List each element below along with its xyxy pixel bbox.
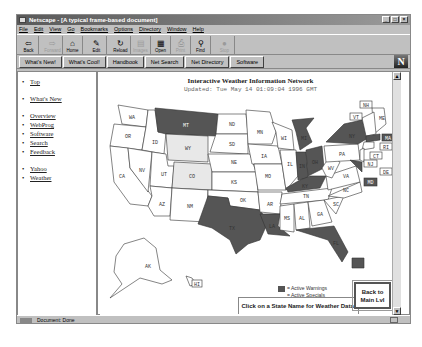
stop-label: Stop <box>220 48 229 53</box>
minimize-button[interactable]: _ <box>382 16 390 23</box>
edit-button[interactable]: ✎ Edit <box>87 36 107 55</box>
label-sd: SD <box>229 142 235 148</box>
netscape-logo-icon[interactable]: N <box>394 55 408 68</box>
nav-item-search[interactable]: Search <box>22 138 96 147</box>
whats-new-button[interactable]: What's New! <box>19 56 62 68</box>
images-label: Images <box>133 48 148 53</box>
stop-icon: ● <box>222 39 227 48</box>
label-me: ME <box>379 116 385 122</box>
nav-item-overview[interactable]: Overview <box>22 111 96 120</box>
label-ok: OK <box>240 198 246 204</box>
warning-swatch <box>278 286 285 292</box>
open-button[interactable]: ▦ Open <box>151 36 171 55</box>
label-id: ID <box>152 140 158 146</box>
nav-link-search[interactable]: Search <box>30 139 48 146</box>
nav-link-webprog[interactable]: WebProg <box>30 121 54 128</box>
instruction-banner: Click on a State Name for Weather Data. <box>238 297 359 314</box>
menu-view[interactable]: View <box>49 25 61 34</box>
label-hi: HI <box>194 282 200 288</box>
label-pa: PA <box>339 152 345 158</box>
label-wa: WA <box>129 115 135 121</box>
label-wv: WV <box>328 166 334 172</box>
nav-item-top[interactable]: Top <box>22 77 96 86</box>
back-to-main-button[interactable]: Back to Main Lvl <box>354 282 391 309</box>
nav-link-top[interactable]: Top <box>30 78 40 85</box>
nav-item-feedback[interactable]: Feedback <box>22 147 96 156</box>
close-button[interactable]: × <box>400 16 408 23</box>
maximize-button[interactable]: □ <box>391 16 399 23</box>
mail-icon[interactable] <box>390 317 398 323</box>
vertical-scrollbar[interactable]: ▲ ▼ <box>392 72 401 315</box>
menu-help[interactable]: Help <box>193 25 204 34</box>
nav-link-whats-new[interactable]: What's New <box>30 95 62 102</box>
handbook-button[interactable]: Handbook <box>107 56 144 68</box>
browser-window: Netscape - [A typical frame-based docume… <box>16 14 411 324</box>
net-search-button[interactable]: Net Search <box>145 56 185 68</box>
nav-item-yahoo[interactable]: Yahoo <box>22 164 96 173</box>
nav-link-weather[interactable]: Weather <box>30 174 52 181</box>
label-ks: KS <box>231 180 237 186</box>
find-button[interactable]: ⚲ Find <box>191 36 211 55</box>
nav-link-overview[interactable]: Overview <box>30 112 56 119</box>
label-la: LA <box>269 224 275 230</box>
label-va: VA <box>343 174 349 180</box>
state-fl <box>296 226 348 262</box>
label-nd: ND <box>229 122 235 128</box>
net-directory-button[interactable]: Net Directory <box>185 56 229 68</box>
status-text: Document: Done <box>37 316 75 324</box>
nav-item-whats-new[interactable]: What's New <box>22 94 96 103</box>
label-wy: WY <box>185 146 191 152</box>
state-nj <box>360 148 364 162</box>
whats-cool-button[interactable]: What's Cool! <box>63 56 106 68</box>
nav-link-yahoo[interactable]: Yahoo <box>30 165 47 172</box>
label-sc: SC <box>333 202 339 208</box>
label-wi: WI <box>281 136 287 142</box>
state-ny <box>326 120 368 144</box>
territory-pr <box>352 258 364 268</box>
label-co: CO <box>189 174 195 180</box>
print-label: Print <box>176 48 185 53</box>
security-key-icon <box>20 318 32 324</box>
menu-directory[interactable]: Directory <box>139 25 161 34</box>
menu-bookmarks[interactable]: Bookmarks <box>81 25 109 34</box>
label-nj: NJ <box>367 162 373 168</box>
label-al: AL <box>299 216 305 222</box>
scroll-up-arrow-icon[interactable]: ▲ <box>393 72 401 80</box>
stop-button[interactable]: ● Stop <box>215 36 235 55</box>
label-az: AZ <box>159 202 165 208</box>
images-icon: ▤ <box>137 39 145 48</box>
label-mo: MO <box>265 174 271 180</box>
label-ga: GA <box>317 212 323 218</box>
menu-window[interactable]: Window <box>167 25 187 34</box>
menu-bar: File Edit View Go Bookmarks Options Dire… <box>17 25 410 34</box>
nav-link-software[interactable]: Software <box>30 130 53 137</box>
menu-options[interactable]: Options <box>114 25 133 34</box>
menu-go[interactable]: Go <box>67 25 74 34</box>
us-weather-map[interactable]: WA OR CA ID NV UT AZ MT WY CO NM ND SD N… <box>100 72 392 315</box>
nav-item-weather[interactable]: Weather <box>22 173 96 182</box>
label-ar: AR <box>267 202 273 208</box>
edit-label: Edit <box>93 48 101 53</box>
label-de: DE <box>383 170 389 176</box>
scroll-down-arrow-icon[interactable]: ▼ <box>393 307 401 315</box>
content-area: Top What's New Overview WebProg Software… <box>17 71 410 315</box>
forward-button[interactable]: ⇨ Forward <box>43 36 63 55</box>
state-az <box>148 186 172 216</box>
software-button[interactable]: Software <box>230 56 264 68</box>
back-button[interactable]: ⇦ Back <box>19 36 39 55</box>
print-button[interactable]: ⎙ Print <box>171 36 191 55</box>
menu-file[interactable]: File <box>19 25 28 34</box>
nav-item-software[interactable]: Software <box>22 129 96 138</box>
label-nm: NM <box>187 204 193 210</box>
nav-link-feedback[interactable]: Feedback <box>30 148 55 155</box>
label-vt: VT <box>353 115 359 121</box>
images-button[interactable]: ▤ Images <box>131 36 151 55</box>
label-ri: RI <box>383 145 389 151</box>
menu-edit[interactable]: Edit <box>34 25 43 34</box>
nav-item-webprog[interactable]: WebProg <box>22 120 96 129</box>
label-ct: CT <box>373 154 379 160</box>
home-icon: ⌂ <box>70 39 75 48</box>
reload-button[interactable]: ↻ Reload <box>111 36 131 55</box>
legend-warnings: = Active Warnings <box>287 285 327 291</box>
home-button[interactable]: ⌂ Home <box>63 36 83 55</box>
